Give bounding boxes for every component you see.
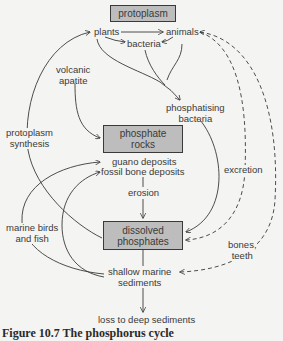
shallow-marine-line1: shallow marine xyxy=(108,267,171,278)
arrow-phosphatising-dissolved xyxy=(186,120,219,232)
phosphate-rocks-line2: rocks xyxy=(131,139,155,150)
bones-teeth-line1: bones, xyxy=(228,240,257,251)
label-shallow-marine-sediments: shallow marine sediments xyxy=(108,267,171,288)
marine-birds-line2: and fish xyxy=(6,234,58,245)
label-volcanic-apatite: volcanic apatite xyxy=(56,65,90,86)
arrow-shallow-fossil xyxy=(62,172,104,277)
arrow-animals-phosphatising xyxy=(167,44,182,80)
figure-caption: Figure 10.7 The phosphorus cycle xyxy=(2,326,174,341)
label-bacteria: bacteria xyxy=(127,39,161,50)
label-plants: plants xyxy=(94,27,119,38)
phosphatising-line1: phosphatising xyxy=(166,103,225,114)
arrow-bones-teeth xyxy=(180,32,276,272)
label-phosphatising-bacteria: phosphatising bacteria xyxy=(166,103,225,124)
arrow-volcanic-rocks xyxy=(75,84,100,138)
marine-birds-line1: marine birds xyxy=(6,223,58,234)
volcanic-apatite-line1: volcanic xyxy=(56,65,90,76)
arrow-marine-guano xyxy=(22,162,104,274)
figure-caption-text: The phosphorus cycle xyxy=(63,326,174,340)
phosphatising-line2: bacteria xyxy=(166,114,225,125)
arrow-plants-bacteria xyxy=(105,37,125,42)
label-protoplasm-synthesis: protoplasm synthesis xyxy=(6,128,53,149)
figure-number: Figure 10.7 xyxy=(2,326,60,340)
protoplasm-box-label: protoplasm xyxy=(118,8,167,19)
label-excretion: excretion xyxy=(224,165,263,176)
volcanic-apatite-line2: apatite xyxy=(56,76,90,87)
dissolved-phosphates-line1: dissolved xyxy=(122,225,164,236)
label-marine-birds-fish: marine birds and fish xyxy=(6,223,58,244)
label-fossil-bone-deposits: fossil bone deposits xyxy=(101,167,184,178)
protoplasm-synthesis-line2: synthesis xyxy=(6,139,53,150)
shallow-marine-line2: sediments xyxy=(108,278,171,289)
arrow-animals-bacteria xyxy=(162,37,173,42)
protoplasm-box: protoplasm xyxy=(110,5,176,22)
phosphate-rocks-line1: phosphate xyxy=(120,128,167,139)
dissolved-phosphates-box: dissolved phosphates xyxy=(103,221,183,250)
label-loss-to-deep-sediments: loss to deep sediments xyxy=(98,315,195,326)
label-animals: animals xyxy=(166,27,199,38)
protoplasm-synthesis-line1: protoplasm xyxy=(6,128,53,139)
phosphate-rocks-box: phosphate rocks xyxy=(103,125,183,153)
bones-teeth-line2: teeth xyxy=(228,251,257,262)
arrow-excretion xyxy=(186,32,245,240)
label-erosion: erosion xyxy=(128,188,159,199)
label-bones-teeth: bones, teeth xyxy=(228,240,257,261)
dissolved-phosphates-line2: phosphates xyxy=(117,236,169,247)
